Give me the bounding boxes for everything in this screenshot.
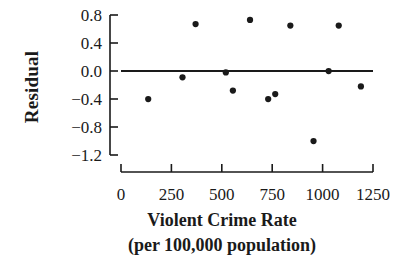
x-tick-label-1: 250 [159, 186, 185, 203]
x-axis-label-line2: (per 100,000 population) [0, 233, 418, 258]
x-tick-label-2: 500 [209, 186, 235, 203]
x-tick-label-0: 0 [117, 186, 126, 203]
x-tick-label-5: 1250 [356, 186, 390, 203]
x-axis-label-line1: Violent Crime Rate [0, 208, 418, 233]
x-axis-label: Violent Crime Rate (per 100,000 populati… [0, 208, 418, 258]
x-tick-label-3: 750 [259, 186, 285, 203]
x-tick-label-4: 1000 [306, 186, 340, 203]
residual-scatter-plot: Residual 0.80.40.0−0.4−0.8−1.2 025050075… [0, 0, 418, 266]
